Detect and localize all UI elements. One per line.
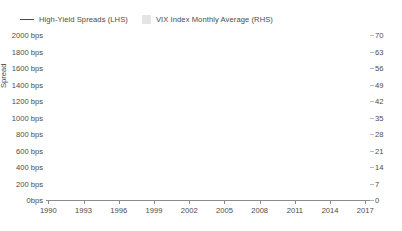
- y-tick-label-left: 1000 bps: [12, 113, 43, 122]
- y-tick-label-left: 800 bps: [16, 130, 43, 139]
- y-tick-label-left: 1400 bps: [12, 80, 43, 89]
- legend-label-vix-index: VIX Index Monthly Average (RHS): [156, 15, 273, 24]
- x-tick-label: 2017: [357, 206, 374, 215]
- y-tick-label-left: 1800 bps: [12, 47, 43, 56]
- x-tick-label: 1993: [75, 206, 92, 215]
- legend-item-high-yield-spreads[interactable]: High-Yield Spreads (LHS): [20, 15, 128, 24]
- y-tick-label-right: 28: [375, 130, 383, 139]
- y-tick-mark-right: [370, 151, 374, 152]
- legend-item-vix-index[interactable]: VIX Index Monthly Average (RHS): [142, 15, 273, 24]
- y-tick-mark-right: [370, 52, 374, 53]
- x-tick-mark: [295, 200, 296, 204]
- y-tick-label-left: 1200 bps: [12, 97, 43, 106]
- line-marker-icon: [20, 19, 34, 20]
- y-tick-label-right: 63: [375, 47, 383, 56]
- y-tick-label-left: 200 bps: [16, 179, 43, 188]
- y-tick-label-right: 42: [375, 97, 383, 106]
- x-tick-mark: [224, 200, 225, 204]
- y-tick-label-right: 49: [375, 80, 383, 89]
- area-swatch-icon: [142, 15, 151, 24]
- y-tick-label-right: 70: [375, 31, 383, 40]
- x-tick-label: 1999: [146, 206, 163, 215]
- x-tick-label: 2014: [322, 206, 339, 215]
- x-tick-mark: [48, 200, 49, 204]
- y-tick-mark-right: [370, 68, 374, 69]
- x-tick-mark: [119, 200, 120, 204]
- chart-legend: High-Yield Spreads (LHS) VIX Index Month…: [20, 12, 287, 26]
- plot-background: [46, 35, 370, 200]
- x-tick-label: 1990: [40, 206, 57, 215]
- y-tick-label-right: 0: [375, 196, 379, 205]
- x-tick-label: 2005: [216, 206, 233, 215]
- y-tick-label-right: 14: [375, 163, 383, 172]
- x-tick-mark: [365, 200, 366, 204]
- x-axis-line: [46, 200, 370, 201]
- y-tick-label-left: 400 bps: [16, 163, 43, 172]
- y-tick-mark-right: [370, 184, 374, 185]
- legend-label-high-yield-spreads: High-Yield Spreads (LHS): [39, 15, 128, 24]
- x-tick-label: 2002: [181, 206, 198, 215]
- y-tick-mark-right: [370, 200, 374, 201]
- y-tick-mark-right: [370, 85, 374, 86]
- y-tick-label-right: 56: [375, 64, 383, 73]
- y-tick-mark-right: [370, 134, 374, 135]
- x-tick-label: 1996: [110, 206, 127, 215]
- y-tick-label-left: 0bps: [27, 196, 43, 205]
- y-tick-label-right: 7: [375, 179, 379, 188]
- x-tick-mark: [260, 200, 261, 204]
- y-tick-label-right: 35: [375, 113, 383, 122]
- y-tick-label-left: 600 bps: [16, 146, 43, 155]
- chart-root: High-Yield Spreads (LHS) VIX Index Month…: [0, 0, 402, 231]
- plot-area: [46, 35, 370, 200]
- x-tick-mark: [330, 200, 331, 204]
- x-tick-label: 2008: [251, 206, 268, 215]
- y-tick-label-left: 1600 bps: [12, 64, 43, 73]
- y-tick-mark-right: [370, 101, 374, 102]
- y-tick-mark-right: [370, 118, 374, 119]
- x-tick-mark: [84, 200, 85, 204]
- y-axis-title: Spread: [0, 64, 8, 89]
- y-tick-mark-right: [370, 35, 374, 36]
- y-tick-label-right: 21: [375, 146, 383, 155]
- x-tick-mark: [154, 200, 155, 204]
- x-tick-mark: [189, 200, 190, 204]
- y-tick-label-left: 2000 bps: [12, 31, 43, 40]
- y-tick-mark-right: [370, 167, 374, 168]
- x-tick-label: 2011: [287, 206, 303, 215]
